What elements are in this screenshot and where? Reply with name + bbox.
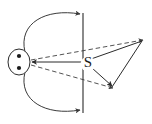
point-label-s: S [84, 54, 92, 70]
source-dot-lower [17, 66, 21, 70]
ray-diagram-canvas: S [0, 0, 152, 124]
ray-diagram-figure: S [0, 0, 152, 124]
source-dot-upper [17, 54, 21, 58]
source-ellipse [8, 49, 30, 75]
